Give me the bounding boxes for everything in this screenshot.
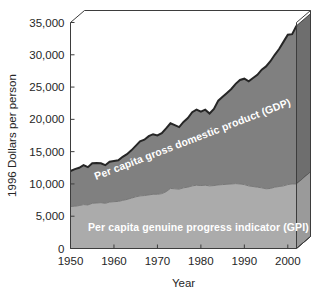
x-axis-tick-labels: 195019601970198019902000 [58,255,301,267]
y-tick-label: 20,000 [29,113,64,125]
y-axis-tick-labels: 05,00010,00015,00020,00025,00030,00035,0… [29,17,64,255]
y-tick-label: 0 [58,243,64,255]
y-tick-label: 15,000 [29,146,64,158]
x-tick-label: 1990 [232,255,258,267]
chart-3d-side-face [297,14,311,249]
chart-container: 05,00010,00015,00020,00025,00030,00035,0… [0,0,325,295]
x-axis-title: Year [172,277,195,289]
y-tick-label: 35,000 [29,17,64,29]
y-axis-title: 1996 Dollars per person [6,74,18,197]
area-chart-figure: 05,00010,00015,00020,00025,00030,00035,0… [0,0,325,295]
x-tick-label: 1950 [58,255,84,267]
y-tick-label: 25,000 [29,81,64,93]
gpi-band-label: Per capita genuine progress indicator (G… [88,221,309,233]
x-tick-label: 2000 [275,255,301,267]
y-tick-label: 10,000 [29,178,64,190]
x-tick-label: 1970 [145,255,171,267]
y-tick-label: 30,000 [29,49,64,61]
y-tick-label: 5,000 [36,210,65,222]
x-tick-label: 1960 [101,255,127,267]
x-tick-label: 1980 [188,255,214,267]
